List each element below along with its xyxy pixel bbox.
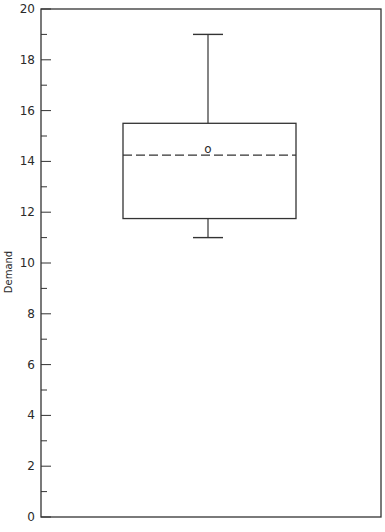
y-tick-label: 6: [27, 358, 35, 372]
y-tick-label: 20: [20, 2, 35, 16]
iqr-box: [123, 123, 296, 218]
y-tick-label: 10: [20, 256, 35, 270]
plot-frame: [41, 9, 381, 517]
y-axis-label: Demand: [3, 251, 14, 293]
plot-border: [41, 9, 381, 517]
box-plot-chart: 02468101214161820 o Demand: [0, 0, 385, 532]
mean-marker: o: [204, 142, 211, 156]
y-tick-label: 8: [27, 307, 35, 321]
y-tick-label: 16: [20, 104, 35, 118]
y-tick-label: 0: [27, 510, 35, 524]
box-series: o: [123, 34, 296, 237]
y-tick-label: 12: [20, 205, 35, 219]
y-tick-label: 18: [20, 53, 35, 67]
y-tick-label: 14: [20, 154, 35, 168]
y-tick-label: 4: [27, 408, 35, 422]
y-axis: 02468101214161820: [20, 2, 51, 524]
y-tick-label: 2: [27, 459, 35, 473]
